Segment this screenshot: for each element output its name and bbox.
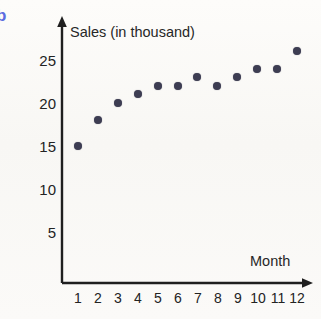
x-tick-label-7: 7 [194, 290, 202, 306]
data-point [193, 73, 201, 81]
data-point [253, 65, 261, 73]
x-tick-label-8: 8 [214, 290, 222, 306]
y-tick-label-5: 5 [30, 224, 56, 241]
data-point [154, 82, 162, 90]
data-point [94, 116, 102, 124]
y-tick-label-15: 15 [30, 138, 56, 155]
x-tick-label-12: 12 [289, 290, 305, 306]
x-axis-title: Month [250, 253, 290, 269]
data-point [114, 99, 122, 107]
y-axis-arrowhead [57, 16, 67, 27]
x-tick-label-6: 6 [174, 290, 182, 306]
y-axis-title: Sales (in thousand) [70, 24, 195, 40]
x-tick-label-11: 11 [271, 290, 286, 306]
data-point [273, 65, 281, 73]
x-tick-label-3: 3 [114, 290, 122, 306]
y-tick-label-20: 20 [30, 95, 56, 112]
y-tick-label-10: 10 [30, 181, 56, 198]
axes-group [0, 0, 321, 319]
data-point [74, 142, 82, 150]
data-point [293, 47, 301, 55]
scatter-plot-screenshot: b Sales (in thousand) Month 25 20 15 10 … [0, 0, 321, 319]
x-tick-label-2: 2 [94, 290, 102, 306]
y-tick-label-25: 25 [30, 52, 56, 69]
x-axis-arrowhead [302, 278, 313, 288]
data-point [174, 82, 182, 90]
x-tick-label-5: 5 [154, 290, 162, 306]
data-point [233, 73, 241, 81]
x-tick-label-1: 1 [74, 290, 82, 306]
x-tick-label-10: 10 [250, 290, 266, 306]
x-tick-label-4: 4 [134, 290, 142, 306]
plot-area: Sales (in thousand) Month 25 20 15 10 5 … [0, 0, 321, 319]
data-point [134, 90, 142, 98]
data-point [213, 82, 221, 90]
x-tick-label-9: 9 [234, 290, 242, 306]
